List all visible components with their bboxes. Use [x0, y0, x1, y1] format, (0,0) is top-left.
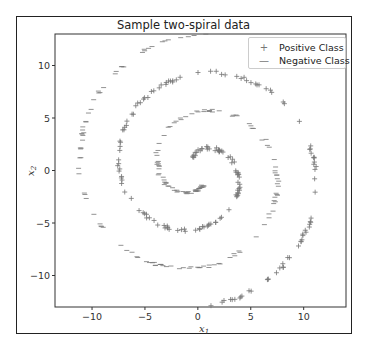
- y-axis-label: x2: [25, 165, 38, 176]
- svg-text:0: 0: [44, 165, 50, 176]
- svg-text:−10: −10: [82, 311, 102, 322]
- x-axis-ticks: −10−50510: [82, 307, 310, 322]
- minus-marker-icon: —: [255, 55, 273, 66]
- svg-text:−5: −5: [36, 218, 50, 229]
- x-axis-label: x1: [199, 323, 209, 336]
- svg-text:10: 10: [298, 311, 310, 322]
- legend-item-negative: — Negative Class: [255, 54, 350, 66]
- legend-item-positive: + Positive Class: [255, 41, 344, 53]
- svg-text:−5: −5: [138, 311, 152, 322]
- svg-text:10: 10: [38, 60, 50, 71]
- axes-box: [55, 34, 346, 307]
- svg-text:5: 5: [248, 311, 254, 322]
- plus-marker-icon: +: [255, 42, 273, 53]
- scatter-points: [76, 34, 319, 308]
- svg-text:5: 5: [44, 113, 50, 124]
- legend: + Positive Class — Negative Class: [248, 37, 346, 69]
- svg-text:−10: −10: [30, 270, 50, 281]
- svg-text:0: 0: [195, 311, 201, 322]
